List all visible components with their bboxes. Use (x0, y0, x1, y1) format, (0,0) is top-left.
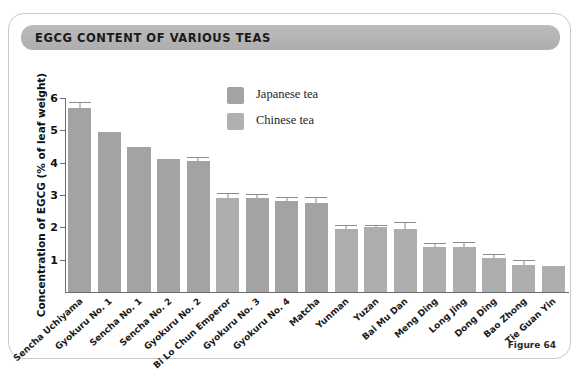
figure-caption: Figure 64 (508, 340, 556, 350)
bar-yunman (335, 229, 358, 292)
y-tick-label: 3 (50, 190, 58, 201)
error-bar-cap (187, 157, 209, 158)
error-bar-stem (375, 226, 376, 228)
bar-gyokuru-no-4 (275, 201, 298, 292)
bar-long-jing (453, 247, 476, 292)
y-tick-label: 1 (50, 254, 58, 265)
bar-sencha-no-2 (157, 159, 180, 292)
bar-bao-zhong (512, 265, 535, 292)
page-title: EGCG CONTENT OF VARIOUS TEAS (35, 30, 271, 45)
error-bar-cap (246, 194, 268, 195)
bar-group (364, 98, 387, 292)
error-bar-stem (464, 243, 465, 247)
error-bar-stem (494, 255, 495, 258)
error-bar-cap (217, 193, 239, 194)
bar-group (542, 98, 565, 292)
x-axis-label: Sencha No. 1 (88, 296, 144, 348)
bar-tie-guan-yin (542, 266, 565, 292)
error-bar-stem (346, 226, 347, 229)
error-bar-stem (198, 158, 199, 161)
y-tick-label: 2 (50, 222, 58, 233)
y-tick-label: 5 (50, 125, 58, 136)
bar-group (127, 98, 150, 292)
bar-group (216, 98, 239, 292)
bar-group (246, 98, 269, 292)
error-bar-stem (405, 223, 406, 229)
bar-meng-ding (423, 247, 446, 292)
bar-group (453, 98, 476, 292)
bar-group (423, 98, 446, 292)
error-bar-cap (513, 260, 535, 261)
bar-group (187, 98, 210, 292)
bar-dong-ding (482, 258, 505, 292)
error-bar-cap (69, 102, 91, 103)
bar-yuzan (364, 227, 387, 292)
error-bar-cap (453, 242, 475, 243)
bar-group (482, 98, 505, 292)
error-bar-cap (394, 222, 416, 223)
error-bar-cap (306, 197, 328, 198)
bar-sencha-no-1 (127, 147, 150, 293)
bar-matcha (305, 203, 328, 292)
error-bar-stem (316, 198, 317, 203)
bar-gyokuru-no-3 (246, 198, 269, 292)
bar-group (394, 98, 417, 292)
error-bar-cap (276, 197, 298, 198)
plot-area: Concentration of EGCG (% of leaf weight)… (65, 98, 568, 292)
figure-title-bar: EGCG CONTENT OF VARIOUS TEAS (21, 25, 560, 50)
bar-sencha-uchiyama (68, 108, 91, 292)
y-tick-label: 6 (50, 93, 58, 104)
bar-bai-mu-dan (394, 229, 417, 292)
figure-card: EGCG CONTENT OF VARIOUS TEAS Japanese te… (8, 13, 571, 359)
x-axis-label: Gyokuru No. 4 (231, 296, 291, 352)
bar-group (157, 98, 180, 292)
bar-series (65, 98, 568, 292)
bar-group (335, 98, 358, 292)
error-bar-stem (434, 244, 435, 246)
error-bar-cap (483, 254, 505, 255)
bar-group (68, 98, 91, 292)
bar-gyokuru-no-1 (98, 132, 121, 292)
x-axis-line (65, 292, 569, 293)
bar-bi-lo-chun-emperor (216, 198, 239, 292)
error-bar-stem (79, 103, 80, 108)
bar-gyokuru-no-2 (187, 161, 210, 292)
error-bar-stem (523, 261, 524, 264)
y-tick-label: 4 (50, 157, 58, 168)
error-bar-cap (335, 225, 357, 226)
bar-group (275, 98, 298, 292)
bar-group (98, 98, 121, 292)
error-bar-cap (424, 243, 446, 244)
error-bar-cap (365, 225, 387, 226)
bar-group (512, 98, 535, 292)
y-axis-title: Concentration of EGCG (% of leaf weight) (35, 73, 47, 317)
bar-group (305, 98, 328, 292)
error-bar-stem (286, 198, 287, 201)
error-bar-stem (227, 194, 228, 198)
error-bar-stem (257, 195, 258, 198)
